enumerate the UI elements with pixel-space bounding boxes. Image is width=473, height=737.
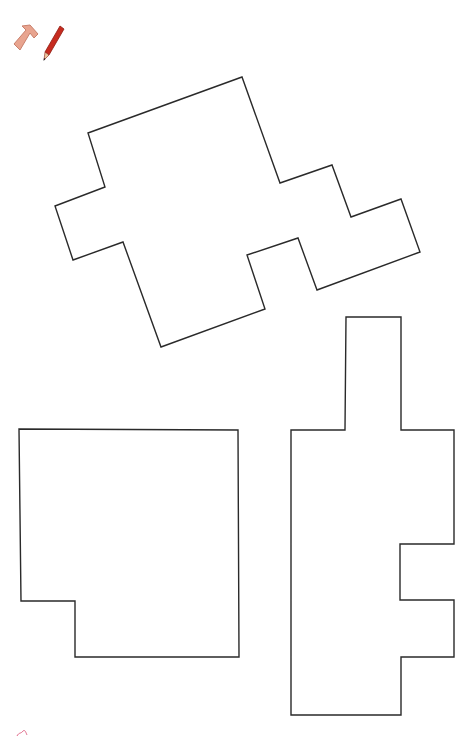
rotated-polyomino[interactable] xyxy=(55,77,420,347)
notched-square[interactable] xyxy=(19,429,239,657)
corner-mark xyxy=(17,730,27,736)
tetromino-piece-icon[interactable] xyxy=(14,25,38,50)
drawing-canvas[interactable] xyxy=(0,0,473,737)
tall-polyomino[interactable] xyxy=(291,317,454,715)
pencil-icon[interactable] xyxy=(44,26,65,61)
